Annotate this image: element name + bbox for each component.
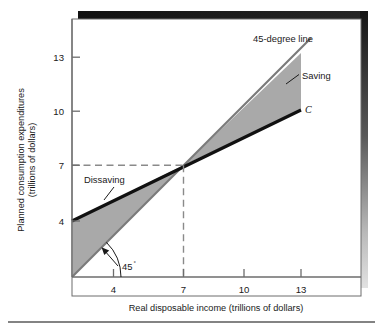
y-tick-label-13: 13 <box>53 52 64 63</box>
y-tick-label-4: 4 <box>59 216 65 227</box>
y-tick-label-7: 7 <box>59 160 64 171</box>
y-axis-title-line2: (trillions of dollars) <box>27 123 37 198</box>
x-tick-label-13: 13 <box>296 284 307 295</box>
y-tick-label-10: 10 <box>53 106 64 117</box>
x-tick-label-4: 4 <box>111 284 117 295</box>
x-axis-title: Real disposable income (trillions of dol… <box>129 303 304 313</box>
y-axis-title-line1: Planned consumption expenditures <box>16 88 26 232</box>
x-tick-label-10: 10 <box>239 284 250 295</box>
angle-label: 45 <box>122 261 132 272</box>
forty-five-degree-line-label: 45-degree line <box>253 33 313 44</box>
x-tick-label-7: 7 <box>181 284 186 295</box>
saving-label: Saving <box>302 70 331 81</box>
figure-container: 13 10 7 4 4 7 10 13 Real disposable inco… <box>0 0 383 331</box>
consumption-line-label: C <box>305 104 312 115</box>
dissaving-label: Dissaving <box>84 174 125 185</box>
